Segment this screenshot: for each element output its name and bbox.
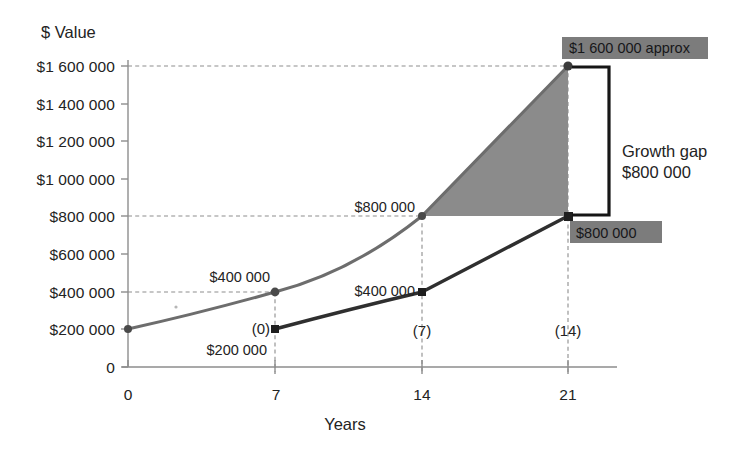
marker-lower-400k: [418, 288, 426, 296]
marker-upper-800k: [418, 212, 426, 220]
badge-bottom-value: $800 000: [570, 221, 662, 243]
y-axis-title: $ Value: [41, 23, 96, 41]
marker-upper-1600k: [563, 61, 572, 70]
badge-bottom-value-text: $800 000: [576, 225, 636, 241]
growth-gap-bracket: [572, 67, 609, 215]
badge-top-value: $1 600 000 approx: [562, 37, 708, 59]
speck-artifact: [174, 305, 177, 308]
label-lower-400k: $400 000: [355, 283, 415, 299]
x-tick-label-7: 7: [272, 386, 281, 403]
x-axis-title: Years: [324, 415, 366, 433]
secondary-x-label-0: (0): [252, 320, 270, 337]
chart-canvas: $1 600 000 $1 400 000 $1 200 000 $1 000 …: [0, 0, 754, 455]
y-axis-ticks: [121, 66, 128, 367]
badge-top-value-text: $1 600 000 approx: [569, 40, 691, 56]
y-tick-label-1000k: $1 000 000: [36, 171, 115, 188]
y-tick-label-200k: $200 000: [50, 321, 116, 338]
marker-lower-200k: [271, 325, 279, 333]
marker-upper-200k: [124, 325, 132, 333]
growth-gap-title: Growth gap: [622, 142, 707, 160]
x-tick-label-14: 14: [413, 386, 431, 403]
y-tick-label-1400k: $1 400 000: [36, 96, 115, 113]
y-tick-label-0: 0: [106, 359, 115, 376]
y-tick-label-800k: $800 000: [50, 208, 116, 225]
label-upper-400k: $400 000: [210, 269, 270, 285]
y-tick-label-400k: $400 000: [50, 284, 116, 301]
label-upper-800k: $800 000: [355, 199, 415, 215]
secondary-x-label-7: (7): [413, 322, 431, 339]
y-tick-label-600k: $600 000: [50, 246, 116, 263]
y-tick-label-1200k: $1 200 000: [36, 133, 115, 150]
growth-gap-value: $800 000: [622, 163, 691, 181]
secondary-x-label-14: (14): [555, 322, 582, 339]
x-tick-label-21: 21: [559, 386, 576, 403]
marker-lower-800k: [564, 212, 573, 221]
x-tick-label-0: 0: [124, 386, 133, 403]
growth-gap-chart: $1 600 000 $1 400 000 $1 200 000 $1 000 …: [0, 0, 754, 455]
marker-upper-400k: [271, 288, 280, 297]
y-tick-label-1600k: $1 600 000: [36, 58, 115, 75]
label-lower-200k: $200 000: [207, 342, 267, 358]
